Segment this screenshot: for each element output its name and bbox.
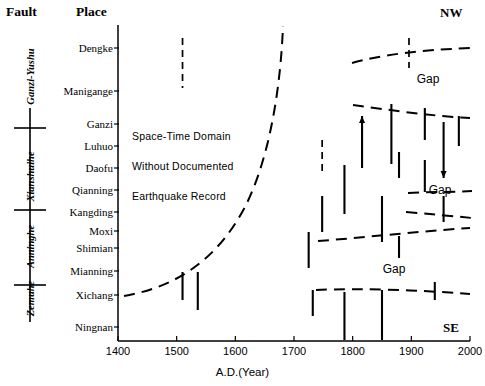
- gap-boundary-lower: [318, 228, 470, 241]
- gap-boundary-middle: [353, 105, 470, 118]
- x-axis-title: A.D.(Year): [0, 366, 485, 378]
- x-tick-label-2000: 2000: [458, 345, 482, 357]
- gap-label-1: Gap: [417, 72, 440, 86]
- x-tick-label-1800: 1800: [340, 345, 364, 357]
- domain-text-line-1: Space-Time Domain: [132, 130, 231, 142]
- x-tick-label-1700: 1700: [282, 345, 306, 357]
- seismicity-space-time-plot: [0, 0, 485, 386]
- rupture-arrow-up: [359, 116, 365, 123]
- rupture-bar-luhuo-1816: [359, 116, 365, 168]
- gap-boundary-bottom: [316, 289, 470, 294]
- domain-text-line-3: Earthquake Record: [132, 190, 226, 202]
- gap-label-3: Gap: [383, 262, 406, 276]
- domain-text-line-2: Without Documented: [132, 160, 234, 172]
- gap-label-2: Gap: [429, 183, 452, 197]
- gap-boundary-kangding-bottom: [406, 212, 472, 218]
- x-tick-label-1400: 1400: [106, 345, 130, 357]
- x-tick-label-1900: 1900: [399, 345, 423, 357]
- rupture-arrow-down: [441, 171, 447, 178]
- rupture-bar-luhuo-1955: [441, 122, 447, 178]
- x-tick-label-1600: 1600: [223, 345, 247, 357]
- x-tick-label-1500: 1500: [164, 345, 188, 357]
- gap-boundary-upper: [352, 48, 470, 63]
- figure-stage: Fault Place NW SE Ganzi-YushuXianshuiheA…: [0, 0, 485, 386]
